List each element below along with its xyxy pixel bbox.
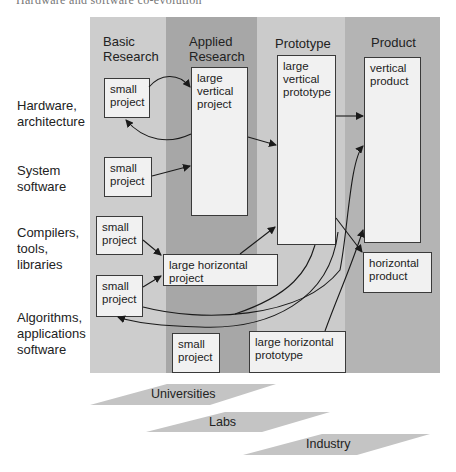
banner-label-universities: Universities — [151, 387, 216, 401]
arrow-sys-to-large-vertical — [152, 166, 190, 176]
banner-labs — [146, 412, 330, 432]
arrow-lvproj-to-lvproto — [248, 137, 276, 145]
flow-arrows — [0, 0, 456, 472]
arrow-alg-to-lhproj — [143, 276, 161, 287]
arrow-lvproto-to-hproduct — [336, 218, 362, 252]
banner-label-industry: Industry — [306, 437, 350, 451]
arrow-hw-to-large-vertical — [149, 76, 190, 87]
arrow-alg-to-vproduct — [143, 146, 363, 315]
banner-label-labs: Labs — [209, 415, 236, 429]
arrow-lhproj-to-lvproto — [240, 227, 275, 254]
arrow-large-vertical-to-hw — [126, 120, 191, 140]
arrow-comp-to-lhproj — [143, 240, 161, 255]
arrow-lvproto-bottom-curve — [235, 245, 315, 314]
